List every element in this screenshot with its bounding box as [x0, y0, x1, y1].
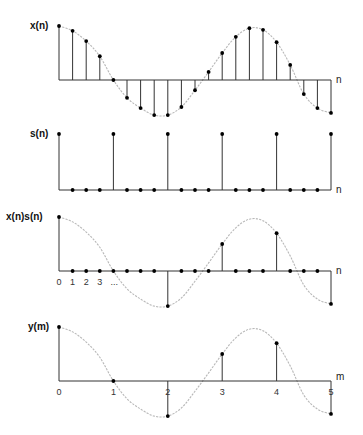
axis-variable-label: n — [336, 265, 342, 276]
sample-dot — [220, 242, 224, 246]
panel-s-of-n: s(n)n — [30, 128, 342, 195]
sample-dot — [261, 269, 265, 273]
sample-dot — [329, 412, 333, 416]
sample-dot — [275, 341, 279, 345]
sample-dot — [125, 96, 129, 100]
sample-dot — [125, 188, 129, 192]
sample-dot — [139, 269, 143, 273]
axis-variable-label: n — [336, 74, 342, 85]
sample-dot — [57, 325, 61, 329]
sample-dot — [220, 51, 224, 55]
panel-label: s(n) — [30, 128, 48, 139]
sample-dot — [166, 304, 170, 308]
sample-dot — [125, 269, 129, 273]
sample-dot — [152, 113, 156, 117]
panel-label: x(n) — [30, 20, 48, 31]
sample-dot — [84, 188, 88, 192]
sample-dot — [112, 132, 116, 136]
sample-dot — [329, 132, 333, 136]
sample-dot — [207, 70, 211, 74]
sample-dot — [275, 132, 279, 136]
sample-dot — [275, 40, 279, 44]
sample-dot — [302, 188, 306, 192]
sample-dot — [139, 188, 143, 192]
tick-label: 2 — [84, 277, 89, 287]
sample-dot — [166, 132, 170, 136]
sample-dot — [57, 24, 61, 28]
sample-dot — [98, 269, 102, 273]
sample-dot — [71, 188, 75, 192]
sample-dot — [84, 39, 88, 43]
sample-dot — [248, 269, 252, 273]
sample-dot — [112, 78, 116, 82]
tick-label: ... — [110, 277, 118, 287]
sample-dot — [234, 269, 238, 273]
sample-dot — [180, 188, 184, 192]
sample-dot — [288, 269, 292, 273]
panel-y-of-m: y(m)m012345 — [28, 321, 344, 418]
tick-label: 3 — [97, 277, 102, 287]
sample-dot — [98, 188, 102, 192]
sample-dot — [193, 188, 197, 192]
sample-dot — [261, 28, 265, 32]
axis-variable-label: m — [336, 371, 344, 382]
sample-dot — [180, 269, 184, 273]
sample-dot — [220, 132, 224, 136]
tick-label: 0 — [56, 387, 61, 397]
sample-dot — [152, 269, 156, 273]
tick-label: 4 — [274, 387, 279, 397]
panel-x-of-n: x(n)n — [30, 20, 342, 117]
sample-dot — [248, 188, 252, 192]
sample-dot — [288, 188, 292, 192]
tick-label: 0 — [56, 277, 61, 287]
sample-dot — [166, 113, 170, 117]
sample-dot — [234, 35, 238, 39]
tick-label: 2 — [165, 387, 170, 397]
sample-dot — [302, 269, 306, 273]
sample-dot — [180, 105, 184, 109]
sample-dot — [316, 269, 320, 273]
sample-dot — [71, 29, 75, 33]
tick-label: 1 — [111, 387, 116, 397]
decimation-figure: x(n)n s(n)n x(n)s(n)n0123... y(m)m012345 — [0, 0, 363, 435]
panel-label: x(n)s(n) — [6, 211, 43, 222]
sample-dot — [152, 188, 156, 192]
sample-dot — [248, 26, 252, 30]
sample-dot — [71, 269, 75, 273]
envelope-curve — [59, 327, 331, 417]
sample-dot — [288, 63, 292, 67]
sample-dot — [329, 111, 333, 115]
sample-dot — [261, 188, 265, 192]
axis-variable-label: n — [336, 184, 342, 195]
sample-dot — [207, 188, 211, 192]
tick-label: 1 — [70, 277, 75, 287]
sample-dot — [316, 106, 320, 110]
sample-dot — [112, 379, 116, 383]
tick-label: 3 — [220, 387, 225, 397]
sample-dot — [220, 352, 224, 356]
sample-dot — [57, 215, 61, 219]
sample-dot — [193, 269, 197, 273]
sample-dot — [234, 188, 238, 192]
sample-dot — [112, 269, 116, 273]
tick-label: 5 — [328, 387, 333, 397]
sample-dot — [316, 188, 320, 192]
envelope-curve — [59, 217, 331, 307]
sample-dot — [98, 54, 102, 58]
sample-dot — [207, 269, 211, 273]
sample-dot — [329, 302, 333, 306]
sample-dot — [84, 269, 88, 273]
sample-dot — [166, 414, 170, 418]
panel-x-times-s: x(n)s(n)n0123... — [6, 211, 342, 308]
sample-dot — [139, 106, 143, 110]
sample-dot — [57, 132, 61, 136]
sample-dot — [275, 231, 279, 235]
sample-dot — [302, 92, 306, 96]
panel-label: y(m) — [28, 321, 49, 332]
sample-dot — [193, 88, 197, 92]
